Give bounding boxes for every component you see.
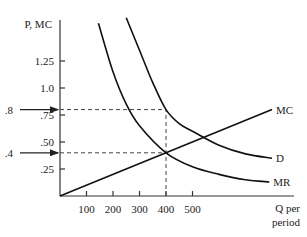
x-tick-label: 400	[158, 203, 175, 215]
curve-label-d: D	[276, 152, 284, 164]
guide-value-label: .8	[5, 104, 14, 116]
y-tick-label: .75	[40, 109, 54, 121]
x-tick-label: 100	[78, 203, 95, 215]
guide-value-label: .4	[5, 147, 14, 159]
y-tick-label: 1.0	[40, 82, 54, 94]
curve-label-mc: MC	[276, 104, 293, 116]
y-axis-title: P, MC	[24, 18, 52, 30]
monopoly-chart: 100200300400500.25.50.751.01.25 .8.4 MRD…	[0, 0, 307, 237]
guides: .8.4	[5, 104, 166, 196]
x-tick-label: 300	[131, 203, 148, 215]
y-tick-label: 1.25	[35, 55, 55, 67]
y-tick-label: .25	[40, 163, 54, 175]
curve-mr	[98, 23, 269, 182]
x-axis-title-line1: Q per	[275, 202, 300, 214]
x-tick-label: 500	[184, 203, 201, 215]
curve-d	[126, 18, 272, 158]
curve-label-mr: MR	[273, 176, 291, 188]
y-tick-label: .50	[40, 136, 54, 148]
x-axis-title-line2: period	[272, 216, 301, 228]
curves: MRDMC	[60, 18, 293, 196]
axes	[60, 20, 294, 196]
x-tick-label: 200	[105, 203, 122, 215]
